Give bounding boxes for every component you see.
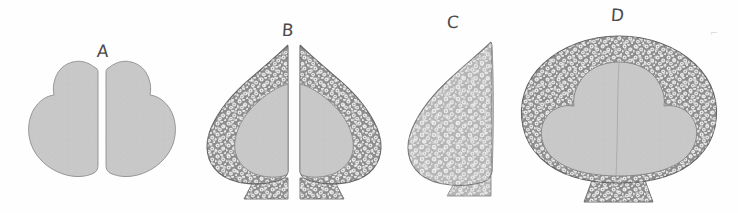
panel-d-drawing — [512, 0, 727, 213]
panel-b-left-half — [207, 45, 288, 199]
panel-b-label: B — [281, 20, 295, 40]
panel-d-body-group — [521, 36, 716, 183]
panel-a: A — [18, 0, 186, 213]
panel-c-drawing — [395, 0, 525, 213]
body-cortex-texture — [408, 42, 492, 185]
panel-a-drawing — [18, 0, 186, 213]
panel-c-body-group — [408, 42, 493, 185]
panel-d: D — [512, 0, 727, 213]
panel-d-label: D — [610, 5, 625, 25]
panel-a-left-half — [29, 61, 98, 176]
panel-a-right-half — [106, 61, 175, 176]
panel-c-label: C — [446, 12, 460, 32]
figure-canvas: A B — [0, 0, 738, 213]
panel-c: C — [395, 0, 525, 213]
stray-ink-mark: ⌐ — [710, 29, 718, 38]
panel-a-label: A — [96, 41, 110, 61]
cotyledon-left — [29, 61, 98, 176]
panel-b: B — [193, 0, 395, 213]
cotyledon-right — [106, 61, 175, 176]
panel-b-right-half — [300, 45, 381, 199]
